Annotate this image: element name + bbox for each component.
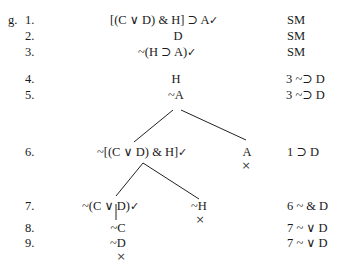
closed-branch-icon: × bbox=[116, 251, 125, 263]
line-7-justification: 6 ~ & D bbox=[287, 199, 328, 213]
line-number-3: 3. bbox=[25, 45, 34, 59]
line-7-left-branch: ~(C ∨ D)✓ bbox=[82, 199, 139, 213]
line-number-1: 1. bbox=[25, 13, 34, 27]
line-number-2: 2. bbox=[25, 29, 34, 43]
line-7-right-branch: ~H bbox=[191, 199, 207, 213]
checkmark-icon: ✓ bbox=[187, 46, 196, 58]
checkmark-icon: ✓ bbox=[130, 200, 139, 212]
line-9-justification: 7 ~ ∨ D bbox=[287, 236, 328, 250]
formula-text: ~(H ⊃ A) bbox=[138, 45, 187, 59]
line-2-formula: D bbox=[173, 29, 182, 43]
line-4-formula: H bbox=[171, 72, 180, 86]
checkmark-icon: ✓ bbox=[209, 14, 218, 26]
line-9-formula: ~D bbox=[110, 236, 126, 250]
line-number-4: 4. bbox=[25, 72, 34, 86]
formula-text: ~(C ∨ D) bbox=[82, 199, 130, 213]
line-number-8: 8. bbox=[25, 221, 34, 235]
line-number-7: 7. bbox=[25, 199, 34, 213]
line-1-formula: [(C ∨ D) & H] ⊃ A✓ bbox=[110, 13, 218, 27]
line-5-formula: ~A bbox=[168, 88, 184, 102]
closed-branch-icon: × bbox=[241, 160, 250, 172]
line-1-justification: SM bbox=[287, 13, 305, 27]
line-8-formula: ~C bbox=[110, 221, 125, 235]
line-3-justification: SM bbox=[287, 45, 305, 59]
line-number-5: 5. bbox=[25, 88, 34, 102]
formula-text: [(C ∨ D) & H] ⊃ A bbox=[110, 13, 209, 27]
line-2-justification: SM bbox=[287, 29, 305, 43]
checkmark-icon: ✓ bbox=[178, 146, 187, 158]
problem-label: g. bbox=[8, 13, 17, 27]
line-6-justification: 1 ⊃ D bbox=[287, 145, 319, 159]
line-4-justification: 3 ~⊃ D bbox=[286, 72, 325, 86]
line-8-justification: 7 ~ ∨ D bbox=[287, 221, 328, 235]
line-6-left-branch: ~[(C ∨ D) & H]✓ bbox=[97, 145, 187, 159]
line-number-6: 6. bbox=[25, 145, 34, 159]
formula-text: ~[(C ∨ D) & H] bbox=[97, 145, 178, 159]
line-3-formula: ~(H ⊃ A)✓ bbox=[138, 45, 196, 59]
closed-branch-icon: × bbox=[195, 214, 204, 226]
line-6-right-branch: A bbox=[242, 145, 251, 159]
line-5-justification: 3 ~⊃ D bbox=[286, 88, 325, 102]
line-number-9: 9. bbox=[25, 236, 34, 250]
